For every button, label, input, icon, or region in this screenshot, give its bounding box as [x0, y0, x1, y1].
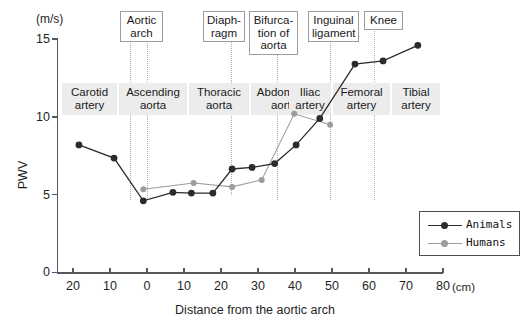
data-point-humans	[259, 177, 265, 183]
x-tick-label: 70	[399, 280, 413, 293]
x-tick	[183, 268, 184, 273]
data-point-animals	[414, 42, 421, 49]
data-point-animals	[293, 141, 300, 148]
x-tick-label: 50	[325, 280, 339, 293]
landmark-guide-line	[277, 54, 278, 200]
landmark-label: Diaph- ragm	[203, 11, 245, 42]
legend-item-humans: Humans	[426, 235, 516, 251]
artery-segment-label: Carotid artery	[62, 83, 117, 115]
x-tick-label: 80	[436, 280, 450, 293]
landmark-guide-line	[231, 41, 232, 195]
data-point-animals	[352, 61, 359, 68]
x-tick	[72, 268, 73, 273]
legend-item-animals: Animals	[426, 217, 516, 233]
y-tick	[52, 272, 57, 273]
landmark-label: Knee	[364, 11, 403, 30]
x-axis-title: Distance from the aortic arch	[110, 303, 400, 317]
x-tick	[294, 268, 295, 273]
x-tick	[368, 268, 369, 273]
data-point-animals	[209, 190, 216, 197]
y-tick-label: 15	[20, 33, 50, 46]
series-line-humans	[143, 114, 330, 189]
artery-segment-label: Ascending aorta	[119, 83, 187, 115]
data-point-animals	[111, 155, 118, 162]
x-tick-label: 20	[66, 280, 80, 293]
legend-label-animals: Animals	[466, 217, 512, 233]
x-tick-label: 60	[362, 280, 376, 293]
x-tick-label: 10	[177, 280, 191, 293]
x-tick-label: 40	[288, 280, 302, 293]
data-point-animals	[170, 189, 177, 196]
x-tick	[257, 268, 258, 273]
landmark-label: Inguinal ligament	[308, 11, 359, 42]
landmark-guide-line	[147, 41, 148, 200]
x-axis	[57, 272, 443, 273]
x-tick	[109, 268, 110, 273]
x-tick-label: 10	[103, 280, 117, 293]
legend-box: Animals Humans	[419, 211, 520, 256]
artery-segment-label: Femoral artery	[333, 83, 390, 115]
data-point-animals	[380, 58, 387, 65]
legend-dot-humans	[441, 240, 448, 247]
y-tick-label: 0	[20, 266, 50, 279]
x-tick	[220, 268, 221, 273]
data-point-animals	[316, 115, 323, 122]
y-tick	[52, 116, 57, 117]
landmark-guide-line	[130, 41, 131, 200]
artery-segment-label: Tibial artery	[392, 83, 440, 115]
x-tick	[146, 268, 147, 273]
y-axis-unit: (m/s)	[36, 12, 63, 26]
data-point-humans	[191, 180, 197, 186]
landmark-label: Bifurca- tion of aorta	[249, 11, 298, 55]
landmark-label: Aortic arch	[120, 11, 163, 42]
data-point-animals	[229, 166, 236, 173]
x-tick-label: 20	[214, 280, 228, 293]
x-axis-unit: (cm)	[452, 281, 475, 293]
x-tick-label: 30	[251, 280, 265, 293]
y-tick-label: 10	[20, 111, 50, 124]
data-point-animals	[188, 190, 195, 197]
x-tick	[331, 268, 332, 273]
y-tick	[52, 194, 57, 195]
legend-label-humans: Humans	[466, 235, 506, 251]
legend-dot-animals	[441, 222, 448, 229]
data-point-animals	[76, 141, 83, 148]
y-tick	[52, 38, 57, 39]
data-point-humans	[229, 184, 235, 190]
data-point-animals	[140, 197, 147, 204]
y-tick-label: 5	[20, 188, 50, 201]
x-tick-label: 0	[144, 280, 151, 293]
artery-segment-label: Thoracic aorta	[189, 83, 249, 115]
data-point-humans	[140, 186, 146, 192]
x-tick	[405, 268, 406, 273]
x-tick	[442, 268, 443, 273]
chart-canvas: (m/s) (cm) PWV Distance from the aortic …	[0, 0, 528, 328]
data-point-animals	[249, 164, 256, 171]
y-axis	[57, 38, 58, 273]
artery-segment-label: Iliac artery	[289, 83, 331, 115]
landmark-guide-line	[330, 41, 331, 200]
